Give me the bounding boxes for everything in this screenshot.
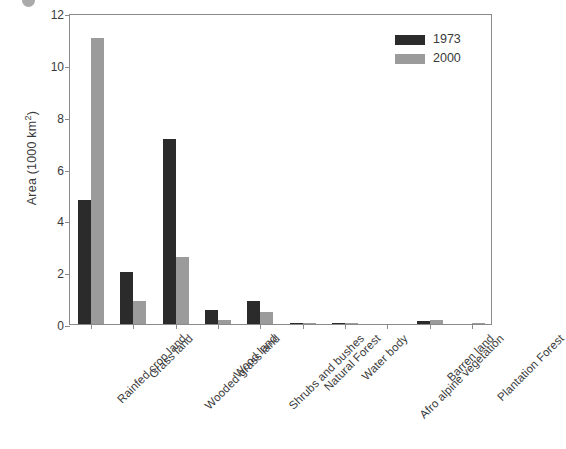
bar-2000 bbox=[345, 323, 358, 324]
y-tick-mark bbox=[65, 67, 70, 68]
bar-2000 bbox=[430, 320, 443, 324]
y-tick-label: 10 bbox=[36, 61, 64, 73]
legend-swatch-1973 bbox=[395, 35, 425, 45]
y-tick-label: 6 bbox=[36, 165, 64, 177]
x-tick-mark bbox=[133, 324, 134, 329]
bar-1973 bbox=[417, 321, 430, 324]
y-tick-label: 2 bbox=[36, 268, 64, 280]
y-tick-mark bbox=[65, 222, 70, 223]
x-tick-mark bbox=[218, 324, 219, 329]
x-tick-mark bbox=[260, 324, 261, 329]
y-tick-mark bbox=[65, 326, 70, 327]
y-tick-mark bbox=[65, 274, 70, 275]
bar-group bbox=[120, 15, 146, 324]
x-category-label: Shrubs and bushes bbox=[287, 332, 367, 412]
scan-artifact bbox=[22, 0, 35, 7]
chart-legend: 1973 2000 bbox=[395, 31, 461, 69]
x-tick-mark bbox=[303, 324, 304, 329]
y-axis-title-prefix: Area (1000 km bbox=[25, 121, 39, 206]
y-tick-mark bbox=[65, 171, 70, 172]
x-category-label: Plantation Forest bbox=[495, 332, 566, 403]
bar-1973 bbox=[332, 323, 345, 324]
x-category-label: Wood land bbox=[231, 332, 279, 380]
y-axis-title-superscript: 2 bbox=[23, 115, 33, 120]
bar-group bbox=[332, 15, 358, 324]
y-tick-mark bbox=[65, 119, 70, 120]
bar-1973 bbox=[205, 310, 218, 324]
bar-1973 bbox=[247, 301, 260, 324]
bar-group bbox=[247, 15, 273, 324]
bar-2000 bbox=[91, 38, 104, 324]
bar-2000 bbox=[303, 323, 316, 324]
bar-2000 bbox=[218, 320, 231, 324]
x-category-label: Afro alpine vegetation bbox=[417, 332, 506, 421]
legend-label-2000: 2000 bbox=[433, 52, 461, 65]
legend-item-1973: 1973 bbox=[395, 31, 461, 48]
bar-2000 bbox=[176, 257, 189, 324]
bar-group bbox=[290, 15, 316, 324]
bar-2000 bbox=[260, 312, 273, 324]
bar-2000 bbox=[133, 301, 146, 324]
plot-area: 024681012 1973 2000 bbox=[69, 14, 492, 325]
y-axis-title: Area (1000 km2) bbox=[23, 53, 39, 263]
x-tick-mark bbox=[430, 324, 431, 329]
x-tick-mark bbox=[387, 324, 388, 329]
bar-group bbox=[205, 15, 231, 324]
y-tick-label: 8 bbox=[36, 113, 64, 125]
y-tick-label: 0 bbox=[36, 320, 64, 332]
legend-label-1973: 1973 bbox=[433, 33, 461, 46]
bar-1973 bbox=[290, 323, 303, 324]
y-tick-label: 4 bbox=[36, 216, 64, 228]
bar-1973 bbox=[78, 200, 91, 324]
bar-1973 bbox=[163, 139, 176, 324]
legend-item-2000: 2000 bbox=[395, 50, 461, 67]
bar-2000 bbox=[472, 323, 485, 324]
y-tick-mark bbox=[65, 15, 70, 16]
bar-group bbox=[78, 15, 104, 324]
legend-swatch-2000 bbox=[395, 54, 425, 64]
x-tick-mark bbox=[91, 324, 92, 329]
bar-1973 bbox=[120, 272, 133, 324]
y-tick-label: 12 bbox=[36, 9, 64, 21]
x-tick-mark bbox=[176, 324, 177, 329]
bar-group bbox=[163, 15, 189, 324]
x-tick-mark bbox=[472, 324, 473, 329]
bar-group bbox=[459, 15, 485, 324]
x-tick-mark bbox=[345, 324, 346, 329]
